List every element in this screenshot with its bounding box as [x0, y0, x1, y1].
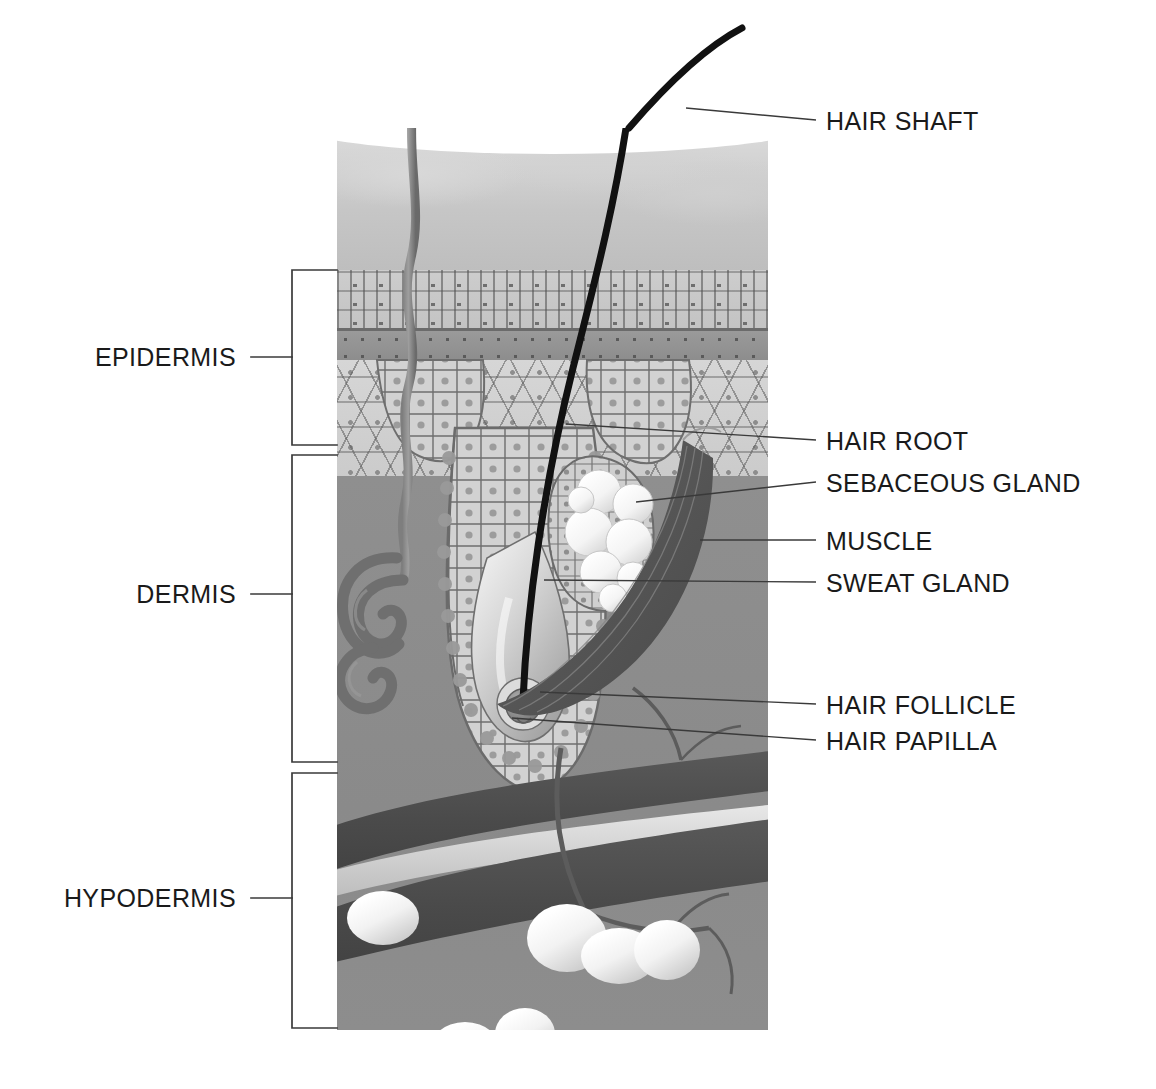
- bracket-hypodermis: [251, 773, 337, 1028]
- layer-label-hypodermis: HYPODERMIS: [40, 886, 236, 911]
- leader-hair-shaft: [686, 108, 816, 120]
- bracket-dermis: [251, 455, 337, 762]
- anatomy-structures: [337, 128, 768, 1030]
- hair-shaft-tip: [629, 28, 742, 128]
- skin-anatomy-diagram: EPIDERMIS DERMIS HYPODERMIS HAIR SHAFT H…: [0, 0, 1156, 1089]
- layer-label-epidermis: EPIDERMIS: [60, 345, 236, 370]
- structure-label-hair-shaft: HAIR SHAFT: [826, 109, 979, 134]
- structure-label-sweat-gland: SWEAT GLAND: [826, 571, 1010, 596]
- skin-cross-section-illustration: [337, 128, 768, 1030]
- structure-label-sebaceous-gland: SEBACEOUS GLAND: [826, 471, 1081, 496]
- layer-label-dermis: DERMIS: [60, 582, 236, 607]
- structure-label-hair-papilla: HAIR PAPILLA: [826, 729, 997, 754]
- structure-label-hair-root: HAIR ROOT: [826, 429, 969, 454]
- sweat-gland: [340, 128, 416, 709]
- structure-label-muscle: MUSCLE: [826, 529, 933, 554]
- structure-label-hair-follicle: HAIR FOLLICLE: [826, 693, 1016, 718]
- bracket-epidermis: [251, 270, 337, 445]
